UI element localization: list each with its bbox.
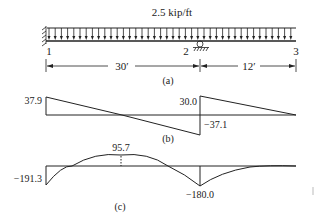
moment-diagram (46, 154, 296, 186)
span-2-3-label: 12′ (242, 60, 255, 72)
distributed-load-arrows (48, 28, 293, 40)
beam-diagram: 2.5 kip/ft 1 2 (42, 6, 299, 87)
moment-support-value: −180.0 (186, 189, 214, 200)
dimension-lines (46, 59, 296, 72)
shear-support-left-value: −37.1 (204, 119, 227, 130)
fixed-support-icon (42, 26, 46, 46)
shear-diagram (46, 96, 296, 135)
roller-support-icon (193, 41, 209, 51)
caption-c: (c) (114, 201, 125, 213)
shear-support-right-value: 30.0 (180, 96, 198, 107)
node-1-label: 1 (46, 45, 52, 57)
node-2-label: 2 (183, 45, 189, 57)
load-label: 2.5 kip/ft (152, 6, 192, 18)
shear-left-value: 37.9 (25, 95, 43, 106)
caption-b: (b) (162, 133, 174, 145)
span-1-2-label: 30′ (115, 60, 128, 72)
moment-left-value: −191.3 (14, 173, 42, 184)
moment-max-value: 95.7 (112, 142, 130, 153)
caption-a: (a) (162, 75, 173, 87)
node-3-label: 3 (293, 45, 299, 57)
